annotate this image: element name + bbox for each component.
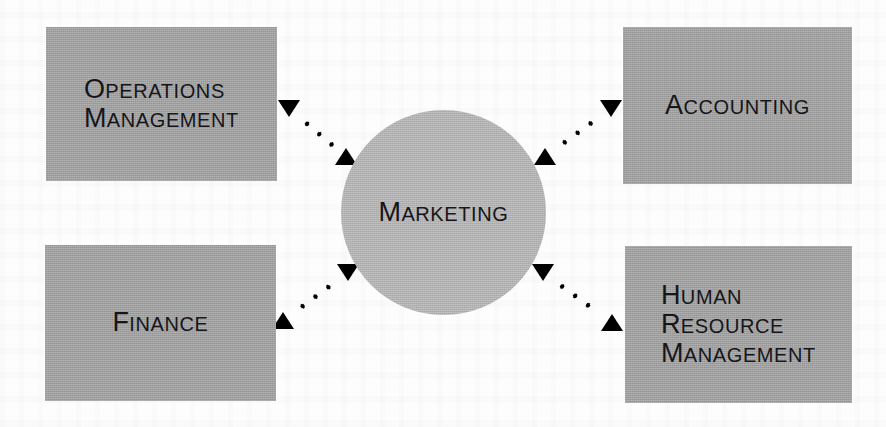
- node-label-operations-management: OPERATIONS MANAGEMENT: [84, 75, 239, 133]
- node-human-resource-management[interactable]: HUMAN RESOURCE MANAGEMENT: [625, 246, 852, 403]
- arrowhead-up-icon: [534, 148, 556, 165]
- label-line: HUMAN: [661, 281, 816, 310]
- node-label-human-resource-management: HUMAN RESOURCE MANAGEMENT: [661, 281, 816, 368]
- arrowhead-down-icon: [278, 100, 300, 117]
- node-marketing-hub[interactable]: MARKETING: [341, 110, 546, 315]
- arrowhead-up-icon: [601, 314, 623, 331]
- label-line: MANAGEMENT: [84, 104, 239, 133]
- label-line: OPERATIONS: [84, 75, 239, 104]
- label-remainder: ANAGEMENT: [684, 344, 816, 366]
- node-finance[interactable]: FINANCE: [45, 245, 276, 401]
- label-initial: M: [661, 338, 684, 368]
- label-remainder: UMAN: [681, 286, 742, 308]
- node-operations-management[interactable]: OPERATIONS MANAGEMENT: [46, 27, 277, 181]
- node-label-finance: FINANCE: [113, 308, 209, 337]
- connector-dots: [300, 116, 336, 147]
- label-remainder: ESOURCE: [681, 315, 784, 337]
- arrowhead-down-icon: [600, 100, 622, 117]
- label-line: ACCOUNTING: [665, 91, 810, 120]
- label-line: FINANCE: [113, 308, 209, 337]
- diagram-canvas: OPERATIONS MANAGEMENT ACCOUNTING FINANCE…: [0, 0, 886, 427]
- label-line: MARKETING: [379, 198, 509, 227]
- label-remainder: INANCE: [129, 313, 208, 335]
- node-accounting[interactable]: ACCOUNTING: [623, 27, 852, 184]
- label-remainder: ANAGEMENT: [107, 109, 239, 131]
- label-initial: A: [665, 90, 683, 120]
- node-label-accounting: ACCOUNTING: [665, 91, 810, 120]
- label-remainder: CCOUNTING: [683, 96, 810, 118]
- connector-dots: [554, 279, 600, 314]
- label-initial: R: [661, 309, 681, 339]
- label-initial: F: [113, 307, 130, 337]
- label-remainder: ARKETING: [401, 203, 508, 225]
- label-remainder: PERATIONS: [105, 80, 225, 102]
- connector-dots: [556, 115, 599, 148]
- label-initial: M: [84, 103, 107, 133]
- label-initial: H: [661, 280, 681, 310]
- label-initial: M: [379, 197, 402, 227]
- connector-dots: [294, 279, 336, 312]
- label-line: MANAGEMENT: [661, 339, 816, 368]
- node-label-marketing: MARKETING: [379, 198, 509, 227]
- label-line: RESOURCE: [661, 310, 816, 339]
- arrowhead-down-icon: [532, 264, 554, 281]
- label-initial: O: [84, 74, 105, 104]
